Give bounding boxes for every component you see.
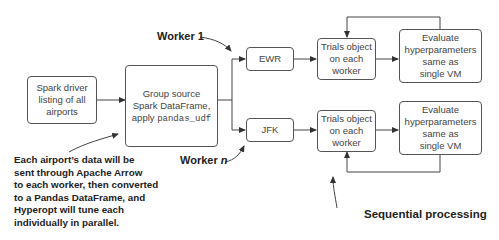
- sequential-processing-label: Sequential processing: [364, 208, 487, 221]
- arrow-note-line-5: Hyperopt will tune each: [14, 204, 158, 217]
- ewr-label: EWR: [259, 53, 281, 65]
- evaluate-bottom-line-4: single VM: [405, 140, 477, 152]
- arrow-note-line-4: to a Pandas DataFrame, and: [14, 192, 158, 205]
- spark-driver-line-1: Spark driver: [36, 82, 87, 94]
- evaluate-top-line-4: single VM: [405, 68, 477, 80]
- trials-bottom-line-1: Trials object: [321, 113, 372, 125]
- trials-bottom-box: Trials object on each worker: [317, 110, 376, 152]
- evaluate-top-line-1: Evaluate: [405, 32, 477, 44]
- apply-text: apply: [132, 112, 157, 123]
- arrow-note-line-6: individually in parallel.: [14, 217, 158, 230]
- worker-1-label: Worker 1: [157, 30, 204, 43]
- evaluate-bottom-line-1: Evaluate: [405, 104, 477, 116]
- group-source-line-1: Group source: [132, 88, 211, 100]
- spark-driver-line-3: airports: [36, 106, 87, 118]
- ewr-box: EWR: [246, 47, 294, 71]
- group-source-line-3: apply pandas_udf: [132, 112, 211, 125]
- arrow-note-line-1: Each airport’s data will be: [14, 154, 158, 167]
- evaluate-top-box: Evaluate hyperparameters same as single …: [399, 29, 482, 83]
- trials-top-line-2: on each: [321, 53, 372, 65]
- group-source-box: Group source Spark DataFrame, apply pand…: [125, 65, 218, 147]
- jfk-label: JFK: [262, 124, 279, 136]
- evaluate-bottom-line-2: hyperparameters: [405, 116, 477, 128]
- trials-top-line-3: worker: [321, 65, 372, 77]
- worker-n-prefix: Worker: [180, 154, 221, 166]
- evaluate-bottom-box: Evaluate hyperparameters same as single …: [399, 101, 482, 155]
- evaluate-top-line-2: hyperparameters: [405, 44, 477, 56]
- worker-n-var: n: [221, 154, 228, 166]
- group-source-line-2: Spark DataFrame,: [132, 100, 211, 112]
- jfk-box: JFK: [246, 118, 294, 142]
- trials-bottom-line-2: on each: [321, 125, 372, 137]
- arrow-note: Each airport’s data will be sent through…: [14, 154, 158, 229]
- spark-driver-box: Spark driver listing of all airports: [27, 76, 97, 124]
- evaluate-bottom-line-3: same as: [405, 128, 477, 140]
- spark-driver-line-2: listing of all: [36, 94, 87, 106]
- trials-bottom-line-3: worker: [321, 137, 372, 149]
- worker-n-label: Worker n: [180, 154, 228, 167]
- trials-top-line-1: Trials object: [321, 41, 372, 53]
- trials-top-box: Trials object on each worker: [317, 38, 376, 80]
- pandas-udf-code: pandas_udf: [157, 114, 211, 124]
- arrow-note-line-3: to each worker, then converted: [14, 179, 158, 192]
- evaluate-top-line-3: same as: [405, 56, 477, 68]
- arrow-note-line-2: sent through Apache Arrow: [14, 167, 158, 180]
